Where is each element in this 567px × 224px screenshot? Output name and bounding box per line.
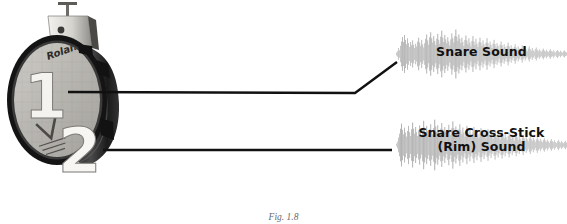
zone-number-2: 2 <box>58 114 101 185</box>
figure-caption: Fig. 1.8 <box>0 212 567 222</box>
waveform-snare-cross-stick: Snare Cross-Stick (Rim) Sound <box>396 116 567 174</box>
waveform-snare-sound: Snare Sound <box>396 26 567 82</box>
waveform-label-snare-sound: Snare Sound <box>396 45 567 59</box>
waveform-label-cross-stick-sound: Snare Cross-Stick (Rim) Sound <box>396 126 567 153</box>
roland-snare-pad-image: Roland Roland <box>0 0 140 185</box>
figure-dual-zone-snare-pad: Roland Roland <box>0 0 567 224</box>
drum-pad-svg: Roland Roland <box>0 0 140 185</box>
